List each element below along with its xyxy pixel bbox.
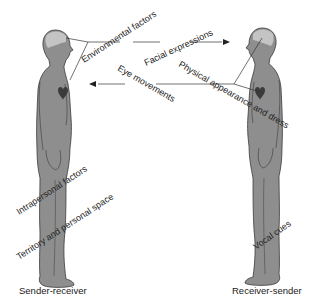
label-facial-expressions: Facial expressions — [143, 27, 215, 68]
caption-sender-receiver: Sender-receiver — [19, 285, 87, 296]
arrow-right-icon — [223, 39, 230, 45]
sender-receiver-figure — [37, 30, 74, 287]
caption-receiver-sender: Receiver-sender — [232, 285, 302, 296]
arrow-left-icon — [89, 81, 96, 87]
nonverbal-communication-diagram: Environmental factors Facial expressions… — [0, 0, 312, 297]
